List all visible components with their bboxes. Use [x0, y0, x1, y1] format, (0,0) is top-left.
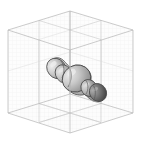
scene-svg — [0, 0, 142, 161]
visualization-canvas: chain of shaded ellipsoidal lobes orient… — [0, 0, 142, 161]
